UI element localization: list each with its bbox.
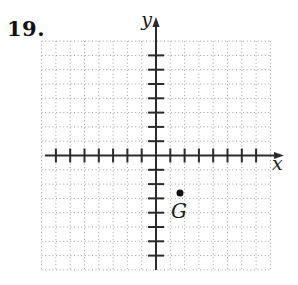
textbook-exercise: 19. y x G <box>0 0 298 285</box>
point-g-label: G <box>171 199 187 223</box>
y-axis-label: y <box>140 8 152 30</box>
x-axis-label: x <box>272 152 283 174</box>
y-axis-arrowhead <box>152 17 159 27</box>
point-g-dot <box>177 190 184 197</box>
coordinate-plane-figure: y x G <box>0 0 298 285</box>
